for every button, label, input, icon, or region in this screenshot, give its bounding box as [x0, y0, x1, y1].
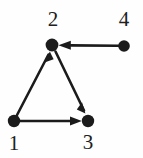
node-3[interactable]: [82, 115, 94, 127]
edge-4-to-2-arrowhead: [58, 41, 70, 50]
node-label-4: 4: [113, 9, 135, 30]
edge-2-to-3: [56, 52, 86, 114]
node-label-3: 3: [77, 132, 99, 153]
edge-group: [17, 41, 119, 126]
edge-4-to-2: [58, 41, 118, 50]
graph-figure: 1 2 3 4: [0, 0, 143, 158]
edge-1-to-2: [17, 51, 54, 116]
node-label-2: 2: [42, 9, 64, 30]
node-4[interactable]: [118, 40, 130, 52]
edge-1-to-3-arrowhead: [70, 117, 82, 126]
node-2[interactable]: [46, 39, 59, 52]
edge-1-to-2-line: [17, 55, 49, 117]
node-1[interactable]: [8, 115, 20, 127]
edge-1-to-3: [20, 117, 82, 126]
edge-2-to-3-line: [56, 52, 85, 111]
node-group: [8, 39, 130, 128]
node-label-1: 1: [3, 133, 25, 154]
